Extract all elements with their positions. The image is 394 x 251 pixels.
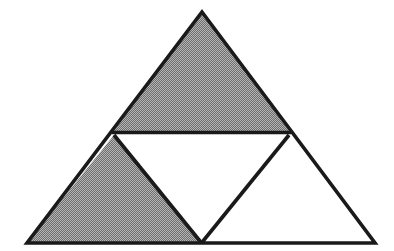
triangle-figure: Subdivided triangle figure A large equil… <box>0 0 394 251</box>
figure-canvas: Subdivided triangle figure A large equil… <box>0 0 394 251</box>
